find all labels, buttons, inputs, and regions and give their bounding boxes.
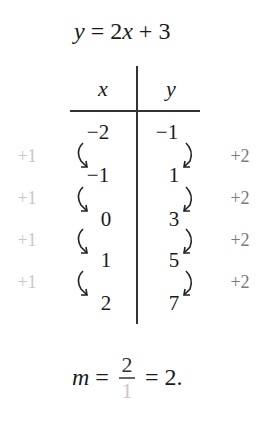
y-delta: +2	[230, 188, 249, 209]
constant: 3	[158, 18, 170, 44]
y-delta: +2	[230, 230, 249, 251]
y-delta: +2	[230, 272, 249, 293]
equation-lhs: y	[74, 18, 85, 44]
fraction-denominator: 1	[121, 379, 132, 403]
y-delta: +2	[230, 146, 249, 167]
y-value: 5	[169, 248, 180, 273]
x-delta: +1	[17, 188, 36, 209]
curved-arrow-left-icon	[74, 227, 96, 257]
plus-sign: +	[133, 18, 159, 44]
y-value: −1	[156, 120, 178, 145]
curved-arrow-right-icon	[180, 269, 202, 299]
y-value: 1	[169, 163, 180, 188]
curved-arrow-right-icon	[180, 185, 202, 215]
curved-arrow-left-icon	[74, 185, 96, 215]
slope-fraction: 2 1	[119, 353, 135, 403]
x-delta: +1	[17, 272, 36, 293]
slope-variable: m	[72, 364, 89, 391]
coefficient: 2	[110, 18, 122, 44]
curved-arrow-left-icon	[74, 269, 96, 299]
table-horizontal-divider	[70, 110, 200, 112]
slope-equation: m = 2 1 = 2.	[72, 353, 182, 403]
y-value: 7	[169, 291, 180, 316]
x-delta: +1	[17, 146, 36, 167]
curved-arrow-right-icon	[180, 227, 202, 257]
equals-sign: =	[85, 18, 111, 44]
x-delta: +1	[17, 230, 36, 251]
curved-arrow-left-icon	[74, 141, 96, 171]
header-x: x	[98, 76, 108, 102]
fraction-numerator: 2	[121, 353, 132, 377]
slope-result: 2.	[164, 364, 182, 391]
header-y: y	[166, 76, 176, 102]
table-vertical-divider	[136, 66, 138, 324]
equals-sign: =	[139, 364, 165, 391]
x-value: 2	[101, 291, 112, 316]
equals-sign: =	[89, 364, 115, 391]
curved-arrow-right-icon	[180, 141, 202, 171]
equation-title: y = 2x + 3	[74, 18, 170, 45]
x-value: 0	[101, 207, 112, 232]
x-value: 1	[101, 248, 112, 273]
equation-variable: x	[122, 18, 133, 44]
y-value: 3	[169, 207, 180, 232]
